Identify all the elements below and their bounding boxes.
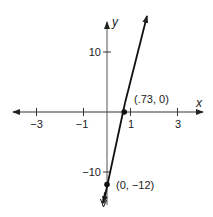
chart-canvas: −3 −1 1 3 10 −10 y x (.73, 0) (0, −12) <box>0 0 213 217</box>
y-tick-label: −10 <box>82 166 101 178</box>
x-tick-label: −1 <box>76 118 89 130</box>
x-axis-label: x <box>195 96 203 110</box>
x-tick-label: 3 <box>175 118 181 130</box>
point-y-intercept <box>104 182 110 188</box>
x-tick-label: 1 <box>128 118 134 130</box>
point-label-y-intercept: (0, −12) <box>116 179 154 191</box>
y-tick-label: 10 <box>89 46 101 58</box>
point-x-intercept <box>121 109 127 115</box>
x-tick-label: −3 <box>30 118 43 130</box>
point-label-x-intercept: (.73, 0) <box>134 93 169 105</box>
function-line <box>125 16 147 103</box>
y-axis-label: y <box>111 15 119 29</box>
